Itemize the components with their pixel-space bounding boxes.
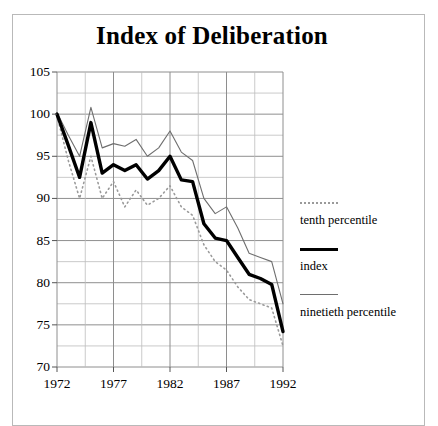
y-axis-label: 95 [37, 150, 51, 164]
x-axis-label: 1992 [270, 377, 297, 391]
thin-line-sample [300, 288, 432, 302]
chart-title: Index of Deliberation [12, 22, 412, 50]
legend-item-tenth-percentile: tenth percentile [300, 196, 432, 228]
chart-svg [57, 72, 283, 367]
x-axis-label: 1977 [100, 377, 127, 391]
y-axis-label: 90 [37, 192, 51, 206]
y-axis-label: 75 [37, 318, 51, 332]
y-axis-label: 70 [37, 360, 51, 374]
x-axis-label: 1982 [157, 377, 184, 391]
legend-item-index: index [300, 242, 432, 274]
legend-label-ninetieth-percentile: ninetieth percentile [300, 305, 432, 320]
plot-area: 70758085909510010519721977198219871992 [57, 72, 283, 367]
thick-line-sample [300, 242, 432, 256]
legend-label-index: index [300, 259, 432, 274]
dotted-line-sample [300, 196, 432, 210]
y-axis-label: 100 [30, 107, 50, 121]
x-axis-label: 1972 [44, 377, 71, 391]
y-axis-label: 105 [30, 65, 50, 79]
y-axis-label: 85 [37, 234, 51, 248]
y-axis-label: 80 [37, 276, 51, 290]
chart-legend: tenth percentile index ninetieth percent… [300, 196, 432, 334]
legend-label-tenth-percentile: tenth percentile [300, 213, 432, 228]
x-axis-label: 1987 [213, 377, 240, 391]
legend-item-ninetieth-percentile: ninetieth percentile [300, 288, 432, 320]
